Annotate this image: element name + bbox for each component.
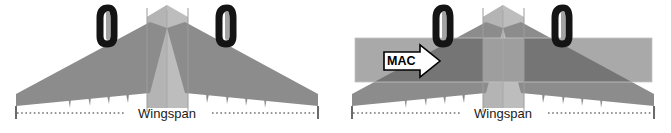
engine-nacelle-left [436, 8, 450, 44]
engine-nacelle-right [555, 8, 569, 44]
flap-fairing-icon [245, 96, 248, 106]
wing-left [16, 22, 167, 108]
flap-fairing-icon [107, 95, 110, 104]
flap-fairing-icon [68, 97, 71, 108]
wingspan-dimension-left: Wingspan [16, 106, 318, 121]
panel-wingspan-only: Wingspan [0, 0, 335, 133]
flap-fairing-icon [404, 97, 407, 108]
wing-right-surface [167, 22, 318, 106]
engine-nacelle-right [219, 8, 233, 44]
flap-fairing-icon [443, 95, 446, 104]
aircraft-planform-left: Wingspan [0, 0, 335, 133]
wingspan-label: Wingspan [138, 106, 196, 121]
flap-fairing-icon [600, 97, 603, 108]
wingspan-dimension-right: Wingspan [352, 106, 654, 121]
flap-fairing-icon [542, 94, 545, 103]
flap-fairing-icon [562, 95, 565, 104]
flap-fairing-icon [462, 94, 465, 103]
flap-fairing-icon [206, 94, 209, 103]
flap-fairing-icon [264, 97, 267, 108]
wing-left-surface [16, 22, 167, 106]
flap-fairing-icon [581, 96, 584, 106]
panel-wingspan-with-mac: MAC Wingspan [336, 0, 671, 133]
flap-fairing-icon [424, 96, 427, 106]
mac-label: MAC [387, 54, 415, 68]
flap-fairing-icon [126, 94, 129, 103]
wing-right [167, 22, 318, 108]
flap-fairing-icon [88, 96, 91, 106]
engine-nacelle-left [100, 8, 114, 44]
wingspan-label: Wingspan [474, 106, 532, 121]
aircraft-planform-right: MAC Wingspan [336, 0, 671, 133]
figure-root: Wingspan [0, 0, 671, 133]
flap-fairing-icon [226, 95, 229, 104]
